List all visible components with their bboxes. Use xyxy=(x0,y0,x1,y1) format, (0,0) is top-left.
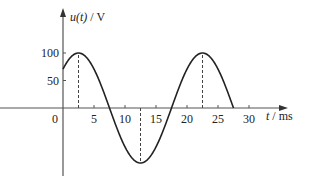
x-tick-label: 25 xyxy=(212,112,224,126)
ticks: 5101520253050100 xyxy=(41,46,255,126)
axes xyxy=(0,8,288,176)
y-tick-label: 100 xyxy=(41,46,59,60)
y-axis-label: u(t) / V xyxy=(70,10,105,24)
x-tick-label: 30 xyxy=(243,112,255,126)
x-tick-label: 15 xyxy=(150,112,162,126)
x-axis-label: t / ms xyxy=(266,109,293,123)
origin-label: 0 xyxy=(52,112,58,126)
y-axis-arrow-icon xyxy=(60,8,66,17)
x-tick-label: 10 xyxy=(119,112,131,126)
x-tick-label: 20 xyxy=(181,112,193,126)
x-tick-label: 5 xyxy=(91,112,97,126)
waveform-chart: 5101520253050100 u(t) / V t / ms 0 xyxy=(0,0,309,183)
y-tick-label: 50 xyxy=(47,74,59,88)
